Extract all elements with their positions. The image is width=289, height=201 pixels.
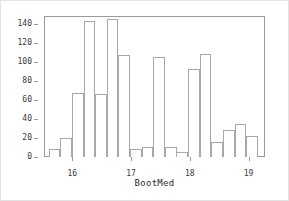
histogram-bar bbox=[95, 94, 107, 157]
histogram-bar bbox=[188, 69, 200, 157]
y-tick-mark bbox=[34, 62, 38, 63]
y-tick-label: 100 bbox=[18, 58, 32, 66]
y-tick-label: 0 bbox=[27, 153, 32, 161]
y-tick-label: 80 bbox=[22, 77, 32, 85]
y-tick-label: 120 bbox=[18, 39, 32, 47]
y-tick-label: 40 bbox=[22, 115, 32, 123]
y-tick-mark bbox=[34, 43, 38, 44]
y-tick-label: 20 bbox=[22, 134, 32, 142]
histogram-bar bbox=[118, 55, 130, 157]
histogram-bar bbox=[130, 149, 142, 157]
histogram-bar bbox=[200, 54, 212, 157]
histogram-bar bbox=[211, 142, 223, 157]
histogram-bar bbox=[153, 57, 165, 157]
y-axis: 020406080100120140 bbox=[0, 0, 44, 201]
x-tick-label: 17 bbox=[126, 170, 136, 178]
x-tick-mark bbox=[249, 157, 250, 161]
x-tick-mark bbox=[190, 157, 191, 161]
histogram-bar bbox=[72, 93, 84, 157]
histogram-bar bbox=[235, 124, 247, 157]
histogram-bar bbox=[165, 147, 177, 157]
histogram-bar bbox=[60, 138, 72, 157]
histogram-bar bbox=[107, 19, 119, 157]
x-tick-mark bbox=[72, 157, 73, 161]
histogram-bar bbox=[246, 136, 258, 157]
x-tick-label: 19 bbox=[244, 170, 254, 178]
histogram-bar bbox=[142, 147, 154, 157]
histogram-bar bbox=[49, 149, 61, 157]
y-tick-label: 140 bbox=[18, 20, 32, 28]
histogram-bars bbox=[44, 16, 265, 157]
y-tick-mark bbox=[34, 81, 38, 82]
histogram-bar bbox=[223, 130, 235, 157]
x-axis-title: BootMed bbox=[44, 178, 265, 188]
y-tick-mark bbox=[34, 119, 38, 120]
histogram-bar bbox=[84, 21, 96, 157]
y-tick-label: 60 bbox=[22, 96, 32, 104]
x-tick-label: 18 bbox=[185, 170, 195, 178]
y-tick-mark bbox=[34, 24, 38, 25]
x-tick-label: 16 bbox=[67, 170, 77, 178]
y-tick-mark bbox=[34, 157, 38, 158]
y-tick-mark bbox=[34, 138, 38, 139]
histogram-figure: 020406080100120140 16171819 BootMed bbox=[0, 0, 289, 201]
y-tick-mark bbox=[34, 100, 38, 101]
x-tick-mark bbox=[131, 157, 132, 161]
